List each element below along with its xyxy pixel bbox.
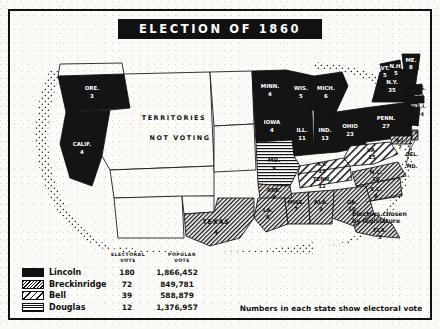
title-banner: ELECTION OF 1860 [118, 19, 322, 39]
label-michigan: MICH. [317, 85, 335, 91]
territory-nebraska-kansas [214, 124, 256, 172]
legend-candidate: Lincoln [44, 268, 111, 277]
label-illinois: ILL. [297, 127, 308, 133]
label-pennsylvania: PENN. [377, 115, 396, 121]
state-minnesota [252, 70, 290, 110]
svg-text:4: 4 [80, 149, 84, 155]
svg-text:4: 4 [270, 127, 274, 133]
electors-annotation-line1: Electors chosen [352, 210, 426, 217]
election-map-page: ELECTION OF 1860 [0, 0, 440, 329]
label-ohio: OHIO [342, 123, 358, 129]
label-not-voting: NOT VOTING [150, 134, 211, 142]
label-kentucky: KY. [317, 161, 326, 167]
swatch-breckinridge [22, 280, 44, 289]
svg-text:27: 27 [382, 123, 390, 129]
electors-annotation: Electors chosen by legislature [352, 210, 426, 225]
legend-popular: 1,866,452 [143, 268, 211, 277]
svg-text:6: 6 [324, 93, 328, 99]
svg-text:12: 12 [318, 183, 326, 189]
label-massachusetts: MASS. [408, 85, 426, 91]
svg-text:5: 5 [383, 72, 387, 78]
state-iowa [254, 108, 292, 142]
legend-candidate: Breckinridge [44, 280, 111, 289]
footnote: Numbers in each state show electoral vot… [238, 304, 424, 313]
electors-annotation-line2: by legislature [352, 217, 426, 224]
legend-electoral: 12 [111, 303, 143, 312]
svg-text:3: 3 [378, 234, 382, 240]
label-indiana: IND. [318, 127, 331, 133]
legend-col-electoral: ELECTORAL VOTE [108, 252, 148, 263]
territory-nevada-utah [110, 166, 214, 198]
label-newhampshire: N.H. [389, 63, 402, 69]
legend-popular: 588,879 [143, 291, 211, 300]
label-newyork: N.Y. [386, 79, 398, 85]
label-florida: FLA. [373, 227, 386, 233]
label-wisconsin: WIS. [294, 85, 308, 91]
legend-row-douglas: Douglas 12 1,376,957 [22, 302, 222, 314]
label-arkansas: ARK. [267, 187, 282, 193]
svg-text:4: 4 [268, 91, 272, 97]
svg-text:7: 7 [294, 206, 298, 212]
svg-text:10: 10 [372, 176, 380, 182]
svg-text:5: 5 [299, 93, 303, 99]
state-michigan [312, 72, 348, 112]
territory-washington [58, 63, 124, 76]
label-mississippi: MISS. [288, 199, 305, 205]
swatch-lincoln [22, 268, 44, 277]
swatch-bell [22, 291, 44, 300]
label-tennessee: TENN. [313, 176, 331, 182]
label-vermont: VT. [380, 65, 389, 71]
label-minnesota: MINN. [261, 83, 279, 89]
svg-text:3: 3 [90, 93, 94, 99]
label-rhodeisland: R.I. [416, 103, 426, 109]
legend: ELECTORAL VOTE POPULAR VOTE Lincoln 180 … [22, 252, 222, 314]
label-maryland: MD. [406, 163, 417, 169]
label-alabama: ALA. [314, 199, 328, 205]
svg-text:9: 9 [319, 206, 323, 212]
label-iowa: IOWA [264, 119, 281, 125]
svg-text:13: 13 [417, 93, 424, 99]
legend-row-lincoln: Lincoln 180 1,866,452 [22, 267, 222, 279]
svg-text:6: 6 [266, 214, 270, 220]
legend-col-popular: POPULAR VOTE [154, 252, 210, 263]
svg-text:9: 9 [272, 165, 276, 171]
legend-popular: 1,376,957 [143, 303, 211, 312]
label-missouri: MO. [268, 157, 280, 163]
territory-dakota [210, 71, 254, 126]
label-northcarolina: N.C. [370, 169, 383, 175]
label-maine: ME. [405, 57, 416, 63]
svg-text:35: 35 [388, 87, 396, 93]
legend-electoral: 180 [111, 268, 143, 277]
legend-electoral: 72 [111, 280, 143, 289]
state-oregon [58, 74, 130, 112]
legend-row-bell: Bell 39 588,879 [22, 290, 222, 302]
legend-electoral: 39 [111, 291, 143, 300]
svg-text:13: 13 [321, 135, 329, 141]
label-delaware: DEL. [406, 151, 419, 157]
legend-candidate: Douglas [44, 303, 111, 312]
label-texas: TEXAS [202, 218, 229, 226]
label-louisiana: LA. [263, 207, 273, 213]
svg-text:12: 12 [318, 168, 326, 174]
page-title: ELECTION OF 1860 [139, 22, 301, 36]
territory-newmexico [114, 196, 184, 238]
state-louisiana [254, 194, 288, 232]
swatch-douglas [22, 303, 44, 312]
legend-candidate: Bell [44, 291, 111, 300]
svg-text:15: 15 [368, 154, 376, 160]
legend-row-breckinridge: Breckinridge 72 849,781 [22, 279, 222, 291]
svg-text:4: 4 [272, 194, 276, 200]
svg-text:8: 8 [374, 193, 378, 199]
svg-text:11: 11 [298, 135, 306, 141]
svg-text:23: 23 [346, 131, 354, 137]
label-california: CALIF. [73, 141, 92, 147]
state-california [60, 110, 110, 186]
svg-text:5: 5 [394, 70, 398, 76]
label-southcarolina: S.C. [370, 186, 382, 192]
legend-header: ELECTORAL VOTE POPULAR VOTE [22, 252, 222, 267]
label-newjersey: N.J. [395, 137, 405, 143]
label-territories: TERRITORIES [142, 114, 207, 122]
label-virginia: VA. [367, 147, 377, 153]
svg-text:4: 4 [421, 111, 425, 117]
svg-text:4: 4 [214, 228, 218, 235]
